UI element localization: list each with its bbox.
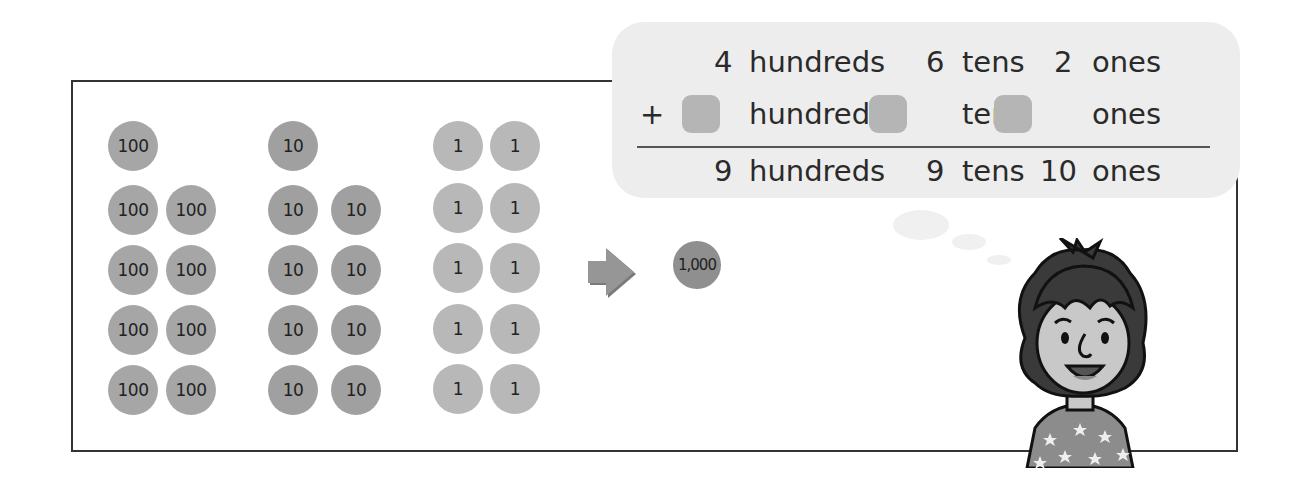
equation-row-sum: 9 hundreds 9 tens 10 ones xyxy=(612,149,1240,193)
ones-label: ones xyxy=(1092,92,1161,136)
hundreds-value: 9 xyxy=(714,149,732,193)
equation-row-addend-2: + hundreds tens ones xyxy=(612,92,1240,136)
thought-dot-medium xyxy=(952,234,986,250)
ones-label: ones xyxy=(1092,40,1161,84)
thought-bubble: 4 hundreds 6 tens 2 ones + hundreds tens… xyxy=(612,22,1240,198)
coin-100: 100 xyxy=(108,245,158,295)
plus-sign: + xyxy=(640,92,664,136)
tens-answer-box[interactable] xyxy=(869,95,907,133)
thought-dot-large xyxy=(893,210,949,240)
coin-100: 100 xyxy=(108,365,158,415)
ones-label: ones xyxy=(1092,149,1161,193)
coin-100: 100 xyxy=(166,185,216,235)
hundreds-answer-box[interactable] xyxy=(682,95,720,133)
tens-label: tens xyxy=(962,40,1025,84)
coin-100: 100 xyxy=(166,245,216,295)
coin-1: 1 xyxy=(433,304,483,354)
hundreds-value: 4 xyxy=(714,40,732,84)
ones-answer-box[interactable] xyxy=(994,95,1032,133)
tens-value: 9 xyxy=(926,149,944,193)
tens-value: 6 xyxy=(926,40,944,84)
coin-1: 1 xyxy=(490,304,540,354)
coin-1: 1 xyxy=(490,183,540,233)
coin-10: 10 xyxy=(268,305,318,355)
girl-character-icon xyxy=(1005,238,1155,468)
coin-1: 1 xyxy=(433,364,483,414)
coin-10: 10 xyxy=(331,305,381,355)
hundreds-label: hundreds xyxy=(749,149,885,193)
coin-100: 100 xyxy=(108,305,158,355)
coin-10: 10 xyxy=(268,121,318,171)
coin-10: 10 xyxy=(331,245,381,295)
coin-1: 1 xyxy=(433,121,483,171)
coin-100: 100 xyxy=(108,121,158,171)
coin-100: 100 xyxy=(166,305,216,355)
hundreds-label: hundreds xyxy=(749,40,885,84)
coin-1: 1 xyxy=(490,121,540,171)
equation-row-addend-1: 4 hundreds 6 tens 2 ones xyxy=(612,40,1240,84)
ones-value: 10 xyxy=(1040,149,1077,193)
ones-value: 2 xyxy=(1054,40,1072,84)
hundreds-label: hundreds xyxy=(749,92,885,136)
right-arrow-icon xyxy=(588,248,640,300)
coin-10: 10 xyxy=(331,185,381,235)
coin-1: 1 xyxy=(433,243,483,293)
coin-10: 10 xyxy=(268,365,318,415)
sum-line xyxy=(637,146,1210,148)
coin-1: 1 xyxy=(433,183,483,233)
coin-10: 10 xyxy=(268,245,318,295)
coin-1: 1 xyxy=(490,364,540,414)
coin-100: 100 xyxy=(108,185,158,235)
coin-1: 1 xyxy=(490,243,540,293)
coin-1000: 1,000 xyxy=(673,241,721,289)
tens-label: tens xyxy=(962,149,1025,193)
coin-10: 10 xyxy=(331,365,381,415)
coin-10: 10 xyxy=(268,185,318,235)
coin-100: 100 xyxy=(166,365,216,415)
